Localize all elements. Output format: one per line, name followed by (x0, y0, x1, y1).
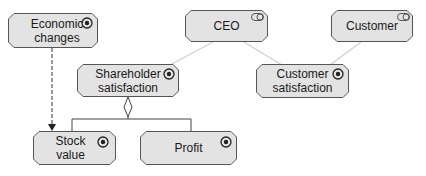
edge-aggregation-profit[interactable] (128, 119, 191, 131)
edge-ceo-shareholder[interactable] (170, 42, 213, 65)
stakeholder-toggle-icon (397, 13, 410, 21)
edge-customer-customer-satisfaction[interactable] (330, 42, 361, 65)
node-shareholder-satisfaction[interactable]: Shareholdersatisfaction (77, 64, 179, 97)
node-economic-changes[interactable]: Economicchanges (8, 13, 98, 48)
node-ceo[interactable]: CEO (185, 10, 268, 42)
node-profit[interactable]: Profit (140, 131, 237, 165)
goal-gear-icon (81, 17, 93, 29)
goal-gear-icon (163, 68, 175, 80)
edge-ceo-customer-satisfaction[interactable] (244, 42, 282, 65)
stakeholder-toggle-icon (251, 13, 264, 21)
edge-aggregation-stock[interactable] (72, 117, 128, 131)
goal-gear-icon (332, 68, 344, 80)
goal-gear-icon (97, 136, 109, 148)
goal-gear-icon (220, 136, 232, 148)
arrowhead-icon (48, 124, 56, 131)
node-customer[interactable]: Customer (331, 10, 413, 42)
aggregation-diamond-icon (124, 97, 132, 117)
node-customer-satisfaction[interactable]: Customersatisfaction (256, 64, 349, 98)
node-stock-value[interactable]: Stockvalue (33, 131, 116, 165)
